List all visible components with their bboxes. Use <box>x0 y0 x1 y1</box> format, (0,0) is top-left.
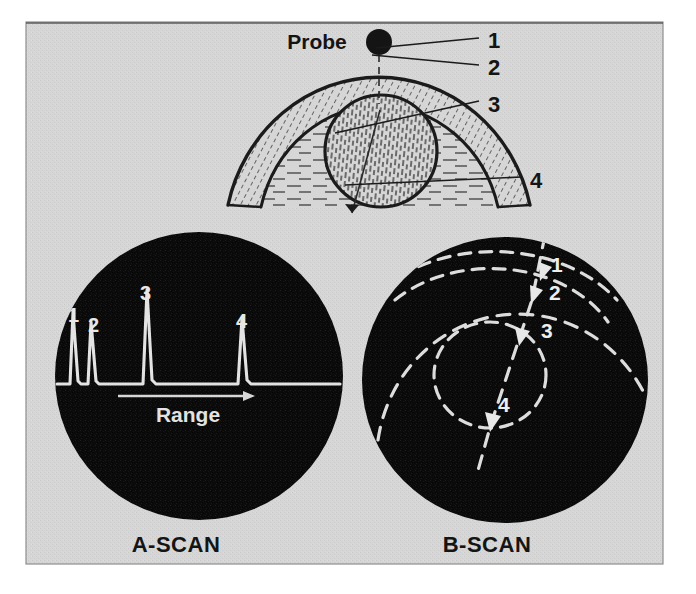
probe-dot-icon <box>366 29 392 55</box>
ultrasound-figure-svg: Probe 1 2 3 4 Range 1 2 3 4 <box>0 0 696 594</box>
callout-label-3: 3 <box>488 92 500 117</box>
a-scan-peak-label-2: 2 <box>88 314 99 336</box>
a-scan-screen <box>55 232 343 520</box>
figure-root: Probe 1 2 3 4 Range 1 2 3 4 <box>0 0 696 594</box>
callout-label-1: 1 <box>488 28 500 53</box>
callout-label-2: 2 <box>488 55 500 80</box>
b-scan-display: 1 2 3 4 <box>362 235 648 523</box>
a-scan-caption: A-SCAN <box>132 532 221 557</box>
a-scan-peak-label-3: 3 <box>140 282 151 304</box>
b-scan-caption: B-SCAN <box>443 532 532 557</box>
b-scan-echo-label-1: 1 <box>551 253 563 276</box>
range-axis-label: Range <box>156 403 220 426</box>
probe-label: Probe <box>287 30 347 53</box>
b-scan-echo-label-3: 3 <box>541 319 553 342</box>
b-scan-echo-label-4: 4 <box>498 393 510 416</box>
a-scan-display: Range 1 2 3 4 <box>55 232 343 520</box>
callout-label-4: 4 <box>530 168 543 193</box>
b-scan-echo-label-2: 2 <box>549 281 561 304</box>
a-scan-peak-label-4: 4 <box>236 310 248 332</box>
